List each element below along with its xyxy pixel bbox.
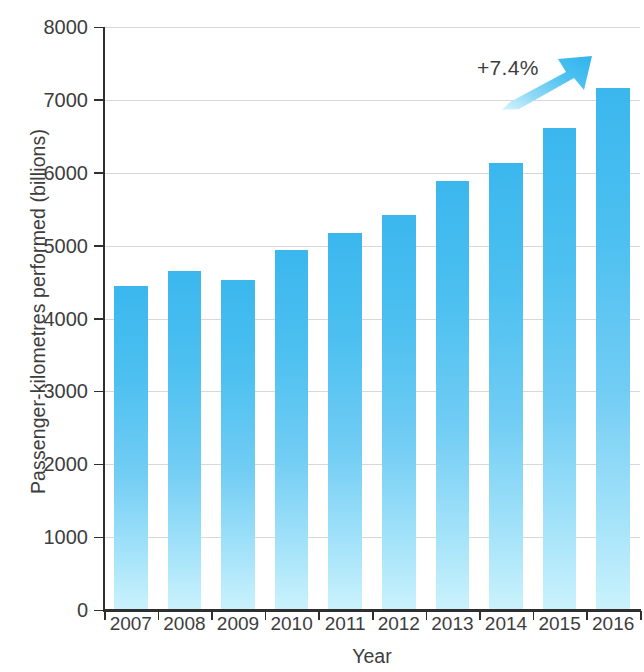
bar-chart: Passenger-kilometres performed (billions…	[0, 0, 644, 672]
x-axis-tick-label: 2008	[157, 614, 211, 635]
x-axis-tick	[640, 611, 642, 620]
up-right-arrow-icon	[500, 52, 596, 118]
x-axis-tick-label: 2009	[211, 614, 265, 635]
x-axis-tick-label: 2014	[479, 614, 533, 635]
x-axis-tick-label: 2012	[372, 614, 426, 635]
x-axis-tick-label: 2011	[318, 614, 372, 635]
x-axis-tick-label: 2013	[425, 614, 479, 635]
x-axis-title: Year	[104, 645, 640, 668]
x-axis-tick-label: 2007	[104, 614, 158, 635]
x-axis-tick-label: 2016	[586, 614, 640, 635]
x-axis-tick-label: 2010	[265, 614, 319, 635]
x-axis-tick-label: 2015	[533, 614, 587, 635]
